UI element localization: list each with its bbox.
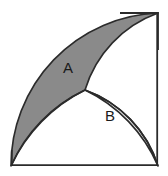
region-a-label: A bbox=[63, 59, 73, 76]
geometry-figure: A B bbox=[0, 0, 168, 176]
region-b-label: B bbox=[105, 107, 115, 124]
geometry-svg: A B bbox=[0, 0, 168, 176]
